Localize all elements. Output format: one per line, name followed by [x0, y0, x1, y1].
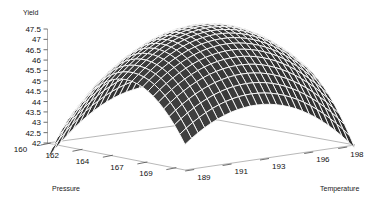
y-axis-tick-labels: 189191193196198 [197, 150, 364, 182]
z-axis: 47.54746.54645.54544.54443.54342.542 Yie… [23, 9, 48, 148]
x-axis-title: Pressure [52, 185, 80, 192]
surface-plot-figure: 47.54746.54645.54544.54443.54342.542 Yie… [0, 0, 382, 217]
x-tick-label: 169 [139, 169, 153, 178]
z-tick-label: 46.5 [25, 46, 41, 55]
z-tick-label: 44 [32, 98, 41, 107]
y-axis-title: Temperature [320, 185, 359, 193]
x-tick-mark [166, 168, 176, 170]
z-axis-title: Yield [23, 9, 38, 16]
response-surface-mesh [47, 23, 355, 159]
x-tick-mark [103, 155, 113, 157]
y-tick-label: 193 [272, 162, 286, 171]
y-tick-label: 198 [350, 150, 364, 159]
x-tick-label: 164 [76, 157, 90, 166]
z-axis-ticks [44, 29, 48, 143]
z-tick-label: 43 [32, 118, 41, 127]
x-axis: 160162164167169 Pressure [14, 143, 177, 192]
y-tick-label: 191 [235, 167, 249, 176]
z-tick-label: 42.5 [25, 129, 41, 138]
y-tick-label: 189 [197, 173, 211, 182]
z-tick-label: 44.5 [25, 87, 41, 96]
x-tick-mark [73, 149, 83, 151]
z-tick-label: 47.5 [25, 25, 41, 34]
plot-canvas: 47.54746.54645.54544.54443.54342.542 Yie… [0, 0, 382, 217]
z-tick-label: 45 [32, 77, 41, 86]
y-axis: 189191193196198 Temperature [185, 147, 364, 193]
x-tick-mark [137, 162, 147, 164]
z-tick-label: 46 [32, 56, 41, 65]
z-tick-label: 42 [32, 139, 41, 148]
y-tick-label: 196 [316, 155, 330, 164]
x-axis-tick-labels: 160162164167169 [14, 145, 153, 179]
x-tick-label: 162 [46, 151, 60, 160]
z-tick-label: 47 [32, 35, 41, 44]
x-tick-label: 167 [110, 163, 124, 172]
z-tick-label: 43.5 [25, 108, 41, 117]
z-tick-label: 45.5 [25, 66, 41, 75]
x-axis-ticks [41, 143, 177, 170]
z-axis-tick-labels: 47.54746.54645.54544.54443.54342.542 [25, 25, 41, 148]
x-tick-label: 160 [14, 145, 28, 154]
